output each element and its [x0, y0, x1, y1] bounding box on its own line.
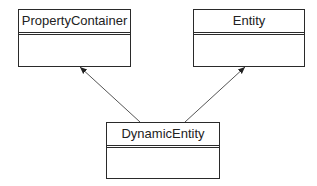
arrow-to-property-container — [80, 67, 140, 122]
arrow-to-entity — [185, 67, 245, 122]
attributes-compartment — [194, 32, 304, 35]
class-name: Entity — [194, 10, 304, 32]
attributes-compartment — [107, 145, 219, 148]
class-property-container[interactable]: PropertyContainer — [18, 9, 131, 67]
class-dynamic-entity[interactable]: DynamicEntity — [106, 122, 220, 179]
attributes-compartment — [19, 32, 130, 35]
class-entity[interactable]: Entity — [193, 9, 305, 67]
class-name: PropertyContainer — [19, 10, 130, 32]
class-name: DynamicEntity — [107, 123, 219, 145]
